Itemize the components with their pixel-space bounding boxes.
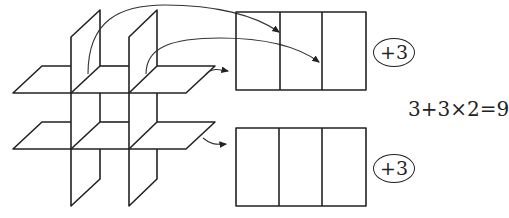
horizontal-plane-bottom bbox=[13, 122, 215, 149]
arrow-plane2-to-divider2 bbox=[146, 38, 319, 74]
vertical-plane-2 bbox=[129, 10, 157, 206]
bottom-rectangle bbox=[236, 128, 366, 206]
top-rectangle bbox=[236, 12, 366, 90]
vertical-plane-1 bbox=[71, 10, 100, 206]
equation: 3+3×2=9 bbox=[408, 97, 509, 121]
horizontal-plane-top bbox=[13, 66, 215, 93]
top-increment-badge: +3 bbox=[373, 38, 415, 67]
bottom-increment-badge: +3 bbox=[373, 154, 415, 183]
arrow-bottom-plane-to-bottom-rect bbox=[203, 138, 226, 144]
arrow-top-plane-to-top-rect bbox=[206, 69, 228, 74]
